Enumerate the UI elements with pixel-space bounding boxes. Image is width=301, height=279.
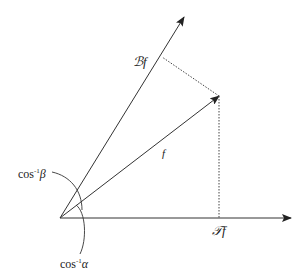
f-label: f	[162, 147, 167, 159]
bf-label: ℬf	[133, 54, 149, 69]
cos-alpha-label: cos-1α	[60, 257, 89, 271]
tf-label: 𝒯f	[212, 223, 228, 238]
b-axis-arrow	[60, 17, 184, 218]
f-vector-arrow	[60, 96, 219, 218]
projection-to-b-axis	[162, 57, 219, 96]
cos-beta-label: cos-1β	[18, 167, 46, 181]
projection-diagram: ℬf f 𝒯f cos-1β cos-1α	[0, 0, 301, 279]
alpha-angle-arc	[76, 205, 85, 254]
